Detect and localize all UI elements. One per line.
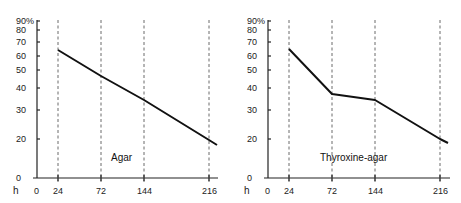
x-tick-label: 216: [433, 186, 448, 196]
y-tick-label: 30: [247, 105, 257, 115]
y-tick-label: 40: [16, 83, 26, 93]
y-tick-label: 30: [16, 105, 26, 115]
x-tick-label: 72: [96, 186, 106, 196]
y-tick-label: 80: [16, 25, 26, 35]
y-tick-label: 60: [247, 51, 257, 61]
series-line-agar: [58, 50, 217, 145]
y-tick-label: 70: [247, 37, 257, 47]
y-tick-label: 40: [247, 83, 257, 93]
y-tick-label: 70: [16, 37, 26, 47]
x-tick-label: 0: [265, 186, 270, 196]
figure: 90% 80 70 60 50 40 30 20 0 h 0 24 72 144…: [0, 0, 461, 203]
y-tick-label: 50: [16, 65, 26, 75]
panel-label: Thyroxine-agar: [320, 152, 388, 163]
x-axis-label: h: [244, 185, 250, 196]
panel-label: Agar: [111, 152, 133, 163]
x-tick-label: 0: [34, 186, 39, 196]
y-tick-label: 20: [16, 134, 26, 144]
chart-panel-thyroxine-agar: 90% 80 70 60 50 40 30 20 0 h 0 24 72 144…: [244, 16, 450, 196]
chart-panel-agar: 90% 80 70 60 50 40 30 20 0 h 0 24 72 144…: [13, 16, 218, 196]
x-tick-label: 216: [202, 186, 217, 196]
x-tick-label: 144: [368, 186, 383, 196]
x-tick-label: 144: [137, 186, 152, 196]
y-tick-label: 60: [16, 51, 26, 61]
y-tick-label: 0: [247, 173, 252, 183]
y-tick-label: 0: [16, 173, 21, 183]
x-tick-label: 24: [284, 186, 294, 196]
series-line-thyroxine-agar: [289, 49, 448, 143]
y-tick-label: 50: [247, 65, 257, 75]
x-axis-label: h: [13, 185, 19, 196]
x-tick-label: 72: [327, 186, 337, 196]
x-tick-label: 24: [53, 186, 63, 196]
y-tick-label: 20: [247, 134, 257, 144]
y-tick-label: 80: [247, 25, 257, 35]
